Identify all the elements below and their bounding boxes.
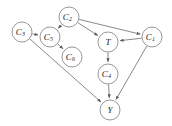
edge-c1-to-t: [120, 38, 141, 40]
node-c3: C3: [12, 22, 32, 42]
nodes-layer: C3C5C2C6TC1C4Y: [12, 7, 162, 120]
node-c4: C4: [98, 64, 118, 84]
causal-dag-figure: C3C5C2C6TC1C4Y: [0, 0, 172, 126]
node-c6: C6: [62, 47, 82, 67]
edge-c1-to-y: [116, 46, 147, 99]
edge-c2-to-t: [78, 23, 98, 36]
node-c2: C2: [59, 7, 79, 27]
edge-c3-to-c5: [32, 34, 38, 35]
edge-c4-to-y: [109, 84, 110, 97]
node-y: Y: [100, 100, 120, 120]
node-c5: C5: [40, 27, 60, 47]
node-t: T: [98, 32, 118, 52]
dag-canvas: C3C5C2C6TC1C4Y: [0, 0, 172, 126]
node-c1: C1: [142, 27, 162, 47]
edge-c5-to-c6: [58, 44, 63, 49]
edge-c2-to-c5: [58, 25, 61, 29]
edge-c3-to-y: [30, 39, 101, 102]
